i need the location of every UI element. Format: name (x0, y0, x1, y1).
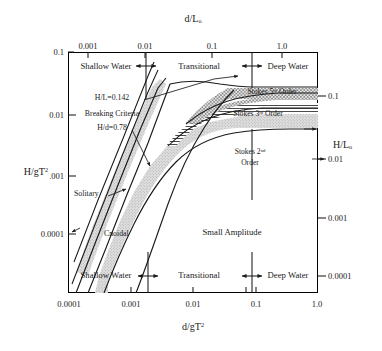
region-label-solitary: Solitary (74, 190, 99, 198)
region-label-transitional-top: Transitional (178, 62, 220, 71)
left-axis-title: H/gT2 (24, 167, 48, 177)
left-tick-label-1: 0.01 (49, 111, 64, 120)
top-tick-label-1: 0.01 (138, 42, 153, 51)
region-label-stokes-2nd-order-line1: Stokes 2nd (235, 148, 266, 156)
region-label-deep-water-top: Deep Water (268, 62, 309, 71)
annotation-breaking-criteria: Breaking Criteria (85, 110, 139, 118)
annotation-breaking-hl: H/L=0.142 (95, 94, 130, 102)
region-label-shallow-water-bottom: Shallow Water (80, 271, 131, 280)
region-label-cnoidal: Cnoidal (104, 230, 129, 238)
bottom-tick-label-2: 0.01 (186, 300, 201, 309)
right-tick-label-3: 0.0001 (328, 272, 351, 281)
top-tick-label-3: 1.0 (277, 42, 288, 51)
top-tick-label-2: 0.1 (207, 42, 218, 51)
bottom-tick-label-3: 0.1 (251, 300, 262, 309)
bottom-axis-title: d/gT2 (182, 322, 204, 332)
region-label-small-amplitude: Small Amplitude (202, 228, 261, 237)
region-label-transitional-bottom: Transitional (178, 271, 220, 280)
left-tick-label-3: 0.0001 (41, 230, 64, 239)
top-tick-label-0: 0.001 (78, 42, 97, 51)
annotation-breaking-hd: H/d=0.78 (97, 124, 127, 132)
bottom-tick-label-1: 0.001 (121, 300, 140, 309)
right-tick-label-2: 0.001 (328, 214, 347, 223)
right-tick-label-0: 0.1 (328, 92, 339, 101)
wave-theory-chart: d/Lo 0.001 0.01 0.1 1.0 0.1 0.01 .001 0.… (0, 0, 382, 351)
region-label-stokes-5th-order: Stokes 5th Order (247, 88, 296, 96)
left-tick-label-2: .001 (49, 172, 64, 181)
region-label-deep-water-bottom: Deep Water (268, 271, 309, 280)
top-axis-title: d/Lo (185, 14, 202, 25)
right-tick-label-1: 0.01 (328, 155, 343, 164)
bottom-tick-label-4: 1.0 (312, 300, 323, 309)
bottom-tick-label-0: 0.0001 (57, 300, 80, 309)
region-label-stokes-3rd-order: Stokes 3rd Order (233, 110, 282, 118)
right-axis-title: H/Lo (333, 140, 352, 151)
region-label-shallow-water-top: Shallow Water (80, 62, 131, 71)
left-tick-label-0: 0.1 (53, 48, 64, 57)
region-label-stokes-2nd-order-line2: Order (241, 159, 259, 167)
